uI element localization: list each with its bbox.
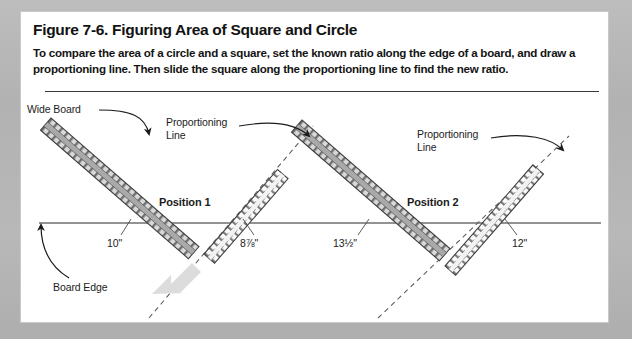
proportioning-line-arrow-2 (491, 136, 563, 150)
figure-screenshot: Figure 7-6. Figuring Area of Square and … (0, 0, 632, 339)
diagram-canvas: Wide Board Proportioning Line Proportion… (21, 96, 608, 322)
measurement-13-1-2in: 13½" (333, 237, 357, 250)
label-position-1: Position 1 (159, 196, 211, 209)
wide-board-arrow (99, 110, 149, 134)
board-edge-arrow (41, 225, 69, 278)
figure-intro-text: To compare the area of a circle and a sq… (33, 45, 599, 76)
figure-card-inner: Figure 7-6. Figuring Area of Square and … (21, 12, 608, 322)
slide-block-arrow-1 (152, 263, 201, 294)
label-board-edge: Board Edge (53, 281, 107, 294)
diagram-svg (21, 96, 608, 322)
measurement-10in: 10" (107, 237, 122, 250)
ratio-strip-right-2 (445, 165, 543, 275)
measurement-12in: 12" (512, 237, 527, 250)
measurement-8-7-8in: 8⅞" (240, 237, 258, 250)
leader-13-1-2in (358, 219, 369, 235)
label-proportioning-line-1: Proportioning Line (166, 116, 227, 141)
label-wide-board: Wide Board (27, 103, 81, 116)
divider-rule (45, 91, 599, 92)
leader-10in (121, 219, 131, 235)
leader-12in (505, 219, 517, 235)
figure-card: Figure 7-6. Figuring Area of Square and … (21, 12, 608, 322)
page-title: Figure 7-6. Figuring Area of Square and … (33, 21, 593, 39)
label-proportioning-line-2: Proportioning Line (417, 128, 478, 153)
label-position-2: Position 2 (407, 196, 459, 209)
